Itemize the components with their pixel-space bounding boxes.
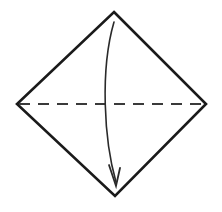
line-drawing-svg [0, 0, 222, 212]
figure-canvas [0, 0, 222, 212]
